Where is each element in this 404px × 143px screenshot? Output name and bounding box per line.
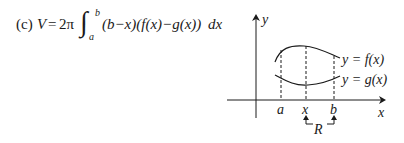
y-axis-label: y bbox=[260, 12, 269, 27]
tick-label-a: a bbox=[277, 102, 284, 117]
curve-label-f: y = f(x) bbox=[340, 52, 384, 68]
tick-label-b: b bbox=[330, 102, 337, 117]
curve-f bbox=[275, 46, 340, 62]
x-axis-label: x bbox=[377, 105, 385, 120]
region-label: R bbox=[313, 122, 323, 137]
region-diagram: y x a x b y = f(x) y = g(x) R bbox=[0, 0, 404, 143]
curve-g bbox=[275, 75, 340, 85]
curve-label-g: y = g(x) bbox=[340, 72, 388, 88]
tick-label-x: x bbox=[301, 102, 309, 117]
